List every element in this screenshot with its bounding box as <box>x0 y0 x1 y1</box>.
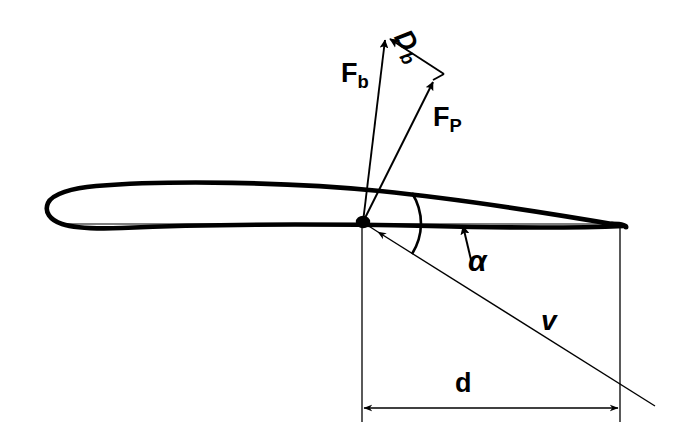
label-force-b-symbol: F <box>341 58 358 88</box>
label-force-p-subscript: P <box>450 115 462 136</box>
label-force-p: FP <box>433 104 462 135</box>
velocity-line <box>378 232 655 406</box>
label-force-b-subscript: b <box>358 71 369 92</box>
label-angle-alpha: α <box>468 246 487 276</box>
vector-FP <box>363 82 433 222</box>
label-force-p-symbol: F <box>433 102 450 132</box>
airfoil-section <box>47 183 626 229</box>
origin-node <box>356 216 370 228</box>
label-distance: d <box>455 370 472 397</box>
parallelogram-closing-side <box>433 74 444 80</box>
label-force-b: Fb <box>341 60 369 91</box>
airfoil-force-diagram: Fb Db FP α v d <box>0 0 691 445</box>
angle-of-attack-arc-lower <box>412 224 421 254</box>
velocity-vector-group <box>364 223 655 406</box>
airfoil-outline <box>47 183 624 229</box>
label-velocity: v <box>541 307 557 335</box>
